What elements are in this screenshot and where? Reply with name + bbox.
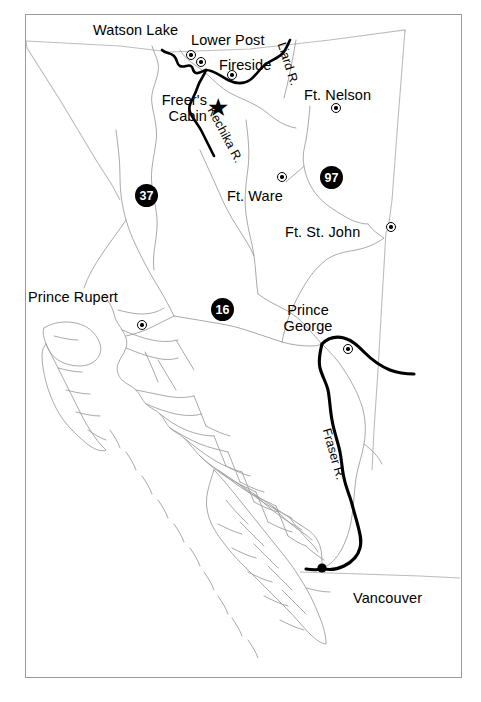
highway-shield-37[interactable]: 37 [135,184,158,207]
highway-shield-37-number: 37 [140,189,154,203]
city-dot-prince-george[interactable] [343,344,353,354]
label-lower-post: Lower Post [191,33,265,49]
map-container: ★ 37 97 16 Watson Lake Lower Post Firesi… [0,0,481,702]
map-frame-border: ★ 37 97 16 Watson Lake Lower Post Firesi… [25,14,462,678]
city-dot-prince-rupert[interactable] [137,320,147,330]
vancouver-route-terminus [317,563,326,572]
label-ft-st-john: Ft. St. John [285,225,360,241]
label-fireside: Fireside [219,58,271,74]
label-ft-ware: Ft. Ware [227,189,283,205]
highway-shield-16[interactable]: 16 [211,298,234,321]
city-dot-ft-ware[interactable] [277,172,287,182]
highway-shield-97-number: 97 [325,171,339,185]
city-dot-lower-post[interactable] [196,57,206,67]
highway-shield-16-number: 16 [216,303,230,317]
label-ft-nelson: Ft. Nelson [304,88,371,104]
city-dot-watson-lake[interactable] [186,50,196,60]
coastline-and-lakes [42,40,384,658]
label-watson-lake: Watson Lake [93,23,178,39]
label-vancouver: Vancouver [353,591,422,607]
map-geometry [25,14,462,678]
city-dot-ft-nelson[interactable] [331,103,341,113]
fraser-river-route [306,337,414,570]
highway-shield-97[interactable]: 97 [320,166,343,189]
label-freers-cabin: Freer's Cabin [149,93,207,124]
label-prince-rupert: Prince Rupert [28,290,118,306]
city-dot-ft-st-john[interactable] [386,222,396,232]
label-prince-george: Prince George [274,303,342,334]
